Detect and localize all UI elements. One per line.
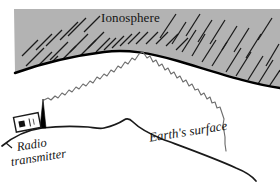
antenna-mast-icon — [40, 99, 46, 128]
ionosphere-label: Ionosphere — [101, 11, 160, 24]
transmitter-dial-icon — [18, 120, 25, 127]
ground-tick — [6, 143, 12, 148]
radio-propagation-diagram: Ionosphere Earth's surface Radio transmi… — [0, 0, 280, 183]
